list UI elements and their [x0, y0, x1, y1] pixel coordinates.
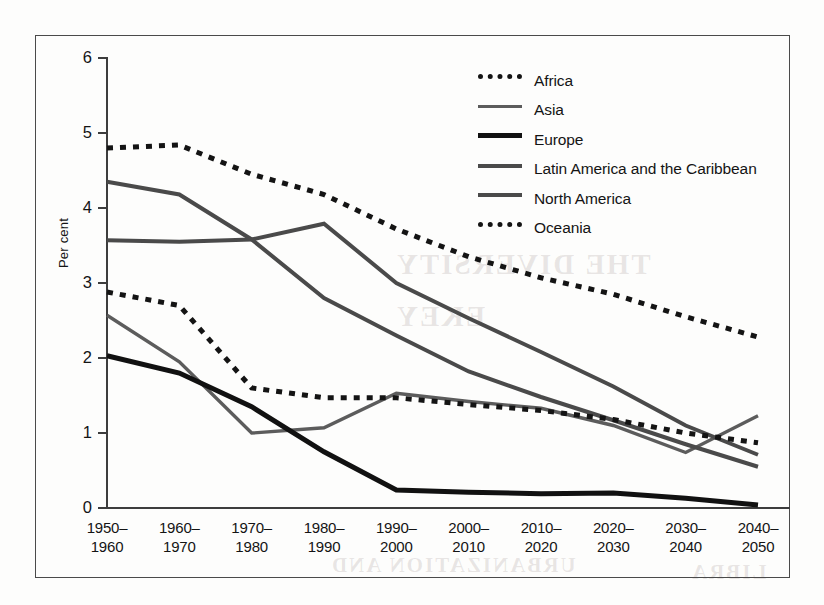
legend-item-asia[interactable]: Asia	[478, 96, 768, 126]
legend-swatch-icon	[478, 74, 522, 89]
legend-item-oceania[interactable]: Oceania	[478, 214, 768, 244]
legend-swatch-icon	[478, 193, 522, 207]
legend-item-africa[interactable]: Africa	[478, 66, 768, 96]
legend-item-label: North America	[534, 190, 631, 208]
legend-item-europe[interactable]: Europe	[478, 125, 768, 155]
series-line-north-america	[107, 224, 758, 455]
legend-item-label: Europe	[534, 131, 583, 149]
legend-swatch-icon	[478, 133, 522, 148]
series-line-europe	[107, 356, 758, 505]
figure-root: THE DIVERSITY EKEY URBANIZATION AND LIBR…	[0, 0, 824, 605]
legend-item-label: Latin America and the Caribbean	[534, 160, 757, 178]
legend-item-north-america[interactable]: North America	[478, 184, 768, 214]
legend-item-latin-america-and-the-caribbean[interactable]: Latin America and the Caribbean	[478, 155, 768, 185]
chart-legend: AfricaAsiaEuropeLatin America and the Ca…	[478, 66, 768, 243]
series-line-oceania	[107, 292, 758, 443]
legend-item-label: Asia	[534, 101, 564, 119]
legend-swatch-icon	[478, 105, 522, 118]
legend-swatch-icon	[478, 164, 522, 178]
legend-swatch-icon	[478, 222, 522, 237]
legend-item-label: Oceania	[534, 219, 591, 237]
legend-item-label: Africa	[534, 72, 573, 90]
